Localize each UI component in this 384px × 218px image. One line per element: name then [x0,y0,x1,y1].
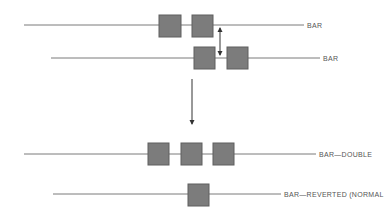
element-box-2 [227,47,248,69]
diagram-arrows [192,28,220,124]
label-bar-reverted: BAR—REVERTED (NORMAL [284,191,384,199]
element-box-1 [159,15,181,37]
diagram-rows [24,15,320,206]
element-box-1 [148,143,169,165]
element-box-2 [192,15,213,37]
element-box-3 [213,143,234,165]
element-box-1 [188,184,209,206]
element-box-1 [194,47,215,69]
row-bar-double [24,143,316,165]
row-bar-reverted [53,184,281,206]
label-bar-2: BAR [323,55,338,63]
row-bar-1 [24,15,304,37]
element-box-2 [181,143,202,165]
label-bar-double: BAR—DOUBLE [319,151,372,159]
row-bar-2 [51,47,320,69]
label-bar-1: BAR [307,22,322,30]
